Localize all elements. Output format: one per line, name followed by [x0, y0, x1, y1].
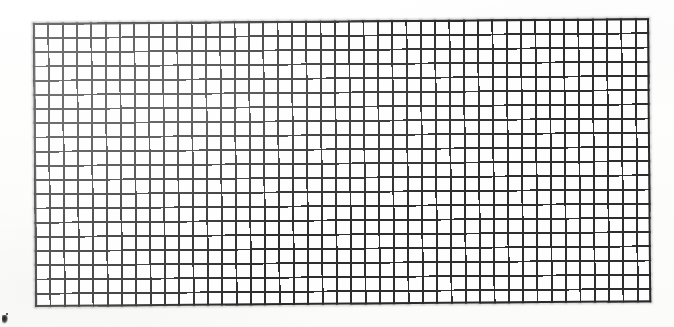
image-description: Scanned black-and-white image of a recta…	[0, 0, 1, 1]
mesh-grid-lines	[33, 18, 651, 307]
ink-speck-artifact	[6, 313, 8, 315]
wire-mesh-grid	[33, 18, 651, 307]
ink-smudge-artifact	[2, 315, 9, 324]
scanned-image-canvas: Scanned black-and-white image of a recta…	[0, 0, 674, 327]
